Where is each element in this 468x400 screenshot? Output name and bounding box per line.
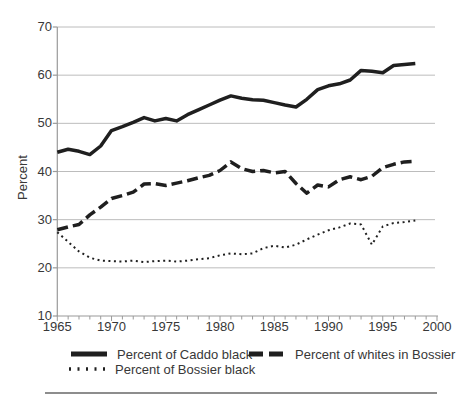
y-tick-label: 40 bbox=[16, 165, 52, 179]
bottom-divider bbox=[45, 392, 437, 394]
legend-item-bossier-black: Percent of Bossier black bbox=[68, 362, 255, 376]
series-line-solid bbox=[57, 64, 415, 155]
line-chart-figure: Percent Percent of Caddo black Percent o… bbox=[0, 0, 468, 400]
y-tick-label: 60 bbox=[16, 68, 52, 82]
dashed-line-swatch-icon bbox=[248, 350, 288, 358]
legend-label-whites-bossier: Percent of whites in Bossier bbox=[295, 347, 455, 362]
x-tick-label: 1970 bbox=[90, 320, 134, 334]
legend-item-whites-bossier: Percent of whites in Bossier bbox=[248, 347, 455, 361]
plot-area bbox=[0, 0, 468, 400]
x-tick-label: 1975 bbox=[144, 320, 188, 334]
y-tick-label: 30 bbox=[16, 213, 52, 227]
x-tick-label: 2000 bbox=[415, 320, 459, 334]
legend-item-caddo-black: Percent of Caddo black bbox=[70, 347, 252, 361]
x-tick-label: 1965 bbox=[35, 320, 79, 334]
y-tick-label: 20 bbox=[16, 261, 52, 275]
x-tick-label: 1985 bbox=[252, 320, 296, 334]
x-tick-label: 1995 bbox=[361, 320, 405, 334]
solid-line-swatch-icon bbox=[70, 350, 110, 358]
dotted-line-swatch-icon bbox=[68, 365, 108, 373]
x-tick-label: 1980 bbox=[198, 320, 242, 334]
series-line-dotted bbox=[57, 221, 415, 263]
y-tick-label: 70 bbox=[16, 20, 52, 34]
x-tick-label: 1990 bbox=[307, 320, 351, 334]
y-tick-label: 50 bbox=[16, 116, 52, 130]
legend-label-caddo-black: Percent of Caddo black bbox=[117, 347, 252, 362]
legend-label-bossier-black: Percent of Bossier black bbox=[115, 362, 255, 377]
